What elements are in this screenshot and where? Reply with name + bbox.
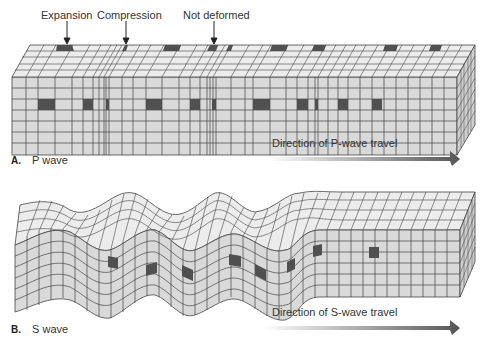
compression-label: Compression <box>97 9 162 21</box>
callout-arrows <box>64 21 217 44</box>
s-wave-block <box>15 191 475 320</box>
panel-b-letter: B. <box>11 324 21 335</box>
panel-b-caption: B. S wave <box>11 323 68 335</box>
panel-a-letter: A. <box>11 155 21 166</box>
s-wave-direction-label: Direction of S-wave travel <box>272 306 397 318</box>
panel-a-caption: A. P wave <box>11 154 68 166</box>
not-deformed-label: Not deformed <box>183 9 250 21</box>
p-wave-direction-label: Direction of P-wave travel <box>272 137 397 149</box>
p-wave-block <box>12 21 475 155</box>
diagram-canvas <box>0 0 490 347</box>
panel-b-title: S wave <box>32 323 68 335</box>
s-wave-direction-arrow <box>262 320 460 335</box>
expansion-label: Expansion <box>41 9 92 21</box>
panel-a-title: P wave <box>32 154 68 166</box>
